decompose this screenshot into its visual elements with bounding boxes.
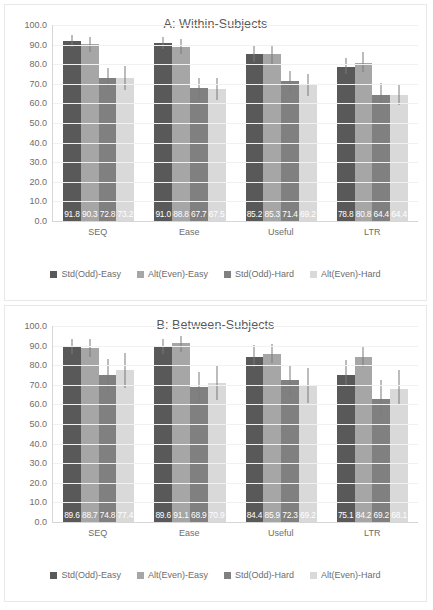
error-bar (399, 84, 400, 106)
bar-value-label: 78.8 (338, 210, 354, 219)
error-bar (290, 365, 291, 396)
y-tick-label: 80.0 (29, 60, 47, 69)
bar[interactable]: 88.7 (81, 348, 99, 522)
y-tick-label: 30.0 (29, 158, 47, 167)
gridline (53, 404, 418, 405)
legend-item[interactable]: Std(Odd)-Hard (224, 269, 294, 279)
legend-label: Std(Odd)-Easy (61, 570, 121, 580)
legend-label: Alt(Even)-Hard (321, 269, 381, 279)
bar-fill: 85.2 (246, 54, 264, 221)
bar-fill: 85.9 (263, 354, 281, 522)
bar[interactable]: 69.2 (372, 399, 390, 522)
plot-wrapper-a: 0.010.020.030.040.050.060.070.080.090.01… (5, 25, 426, 247)
legend-item[interactable]: Alt(Even)-Easy (137, 570, 208, 580)
x-axis-a: SEQEaseUsefulLTR (52, 223, 418, 241)
legend-item[interactable]: Std(Odd)-Easy (50, 570, 121, 580)
gridline (53, 25, 418, 26)
chart-panel-a: A: Within-Subjects 0.010.020.030.040.050… (4, 4, 427, 301)
bar-fill: 72.8 (99, 78, 117, 221)
bar-fill: 75.1 (337, 375, 355, 522)
error-bar (163, 37, 164, 49)
legend-item[interactable]: Std(Odd)-Easy (50, 269, 121, 279)
bar[interactable]: 74.8 (99, 375, 117, 522)
bar[interactable]: 71.4 (281, 81, 299, 221)
legend-label: Alt(Even)-Hard (321, 570, 381, 580)
chart-title-a: A: Within-Subjects (5, 5, 426, 25)
bar[interactable]: 72.8 (99, 78, 117, 221)
error-bar (399, 370, 400, 405)
x-tick-label: Useful (235, 223, 327, 241)
error-bar (307, 74, 308, 96)
y-tick-label: 60.0 (29, 99, 47, 108)
bar-fill: 69.2 (372, 399, 390, 522)
legend-item[interactable]: Alt(Even)-Easy (137, 269, 208, 279)
bar[interactable]: 91.0 (154, 43, 172, 221)
x-tick-label: LTR (327, 524, 419, 542)
bar-value-label: 88.8 (173, 210, 189, 219)
bar[interactable]: 85.9 (263, 354, 281, 522)
bar[interactable]: 85.3 (263, 54, 281, 221)
y-axis-b: 0.010.020.030.040.050.060.070.080.090.01… (5, 326, 51, 522)
bar[interactable]: 89.6 (154, 346, 172, 522)
legend-label: Std(Odd)-Hard (235, 570, 294, 580)
error-bar (254, 46, 255, 62)
x-axis-b: SEQEaseUsefulLTR (52, 524, 418, 542)
y-tick-label: 40.0 (29, 138, 47, 147)
x-tick-label: Ease (144, 223, 236, 241)
bar[interactable]: 77.4 (116, 370, 134, 522)
bar-value-label: 67.5 (209, 210, 225, 219)
bar-fill: 90.3 (81, 44, 99, 221)
gridline (53, 326, 418, 327)
bar[interactable]: 91.1 (172, 343, 190, 522)
legend-item[interactable]: Alt(Even)-Hard (310, 570, 381, 580)
error-bar (381, 83, 382, 105)
y-tick-label: 20.0 (29, 478, 47, 487)
bar-fill: 85.3 (263, 54, 281, 221)
bar-value-label: 72.8 (100, 210, 116, 219)
legend-swatch-icon (50, 271, 57, 278)
error-bar (272, 344, 273, 363)
gridline (53, 182, 418, 183)
bar[interactable]: 90.3 (81, 44, 99, 221)
bar-value-label: 85.2 (247, 210, 263, 219)
error-bar (125, 353, 126, 387)
bar-fill: 84.2 (355, 357, 373, 522)
bar-fill: 84.4 (246, 357, 264, 522)
error-bar (198, 78, 199, 99)
bar-value-label: 91.8 (64, 210, 80, 219)
legend-item[interactable]: Alt(Even)-Hard (310, 269, 381, 279)
bar-value-label: 91.0 (155, 210, 171, 219)
bar-fill: 72.3 (281, 380, 299, 522)
error-bar (216, 78, 217, 100)
x-tick-label: SEQ (52, 524, 144, 542)
bar-value-label: 68.9 (191, 511, 207, 520)
error-bar (180, 39, 181, 55)
bar[interactable]: 88.8 (172, 47, 190, 221)
gridline (53, 444, 418, 445)
bar-fill: 88.8 (172, 47, 190, 221)
legend-item[interactable]: Std(Odd)-Hard (224, 570, 294, 580)
bar[interactable]: 78.8 (337, 67, 355, 221)
bar[interactable]: 84.4 (246, 357, 264, 522)
y-tick-label: 10.0 (29, 498, 47, 507)
gridline (53, 385, 418, 386)
bar-value-label: 64.4 (374, 210, 390, 219)
bar[interactable]: 72.3 (281, 380, 299, 522)
y-tick-label: 30.0 (29, 459, 47, 468)
x-tick-label: LTR (327, 223, 419, 241)
x-tick-label: Ease (144, 524, 236, 542)
gridline (53, 162, 418, 163)
bar[interactable]: 75.1 (337, 375, 355, 522)
error-bar (89, 339, 90, 357)
gridline (53, 463, 418, 464)
bar[interactable]: 89.6 (63, 346, 81, 522)
bar[interactable]: 85.2 (246, 54, 264, 221)
bar[interactable]: 84.2 (355, 357, 373, 522)
bar-value-label: 70.9 (209, 511, 225, 520)
bar[interactable]: 91.8 (63, 41, 81, 221)
bar-value-label: 72.3 (282, 511, 298, 520)
bar[interactable]: 73.2 (116, 78, 134, 221)
chart-panel-b: B: Between-Subjects 0.010.020.030.040.05… (4, 305, 427, 602)
error-bar (216, 365, 217, 400)
y-tick-label: 50.0 (29, 119, 47, 128)
